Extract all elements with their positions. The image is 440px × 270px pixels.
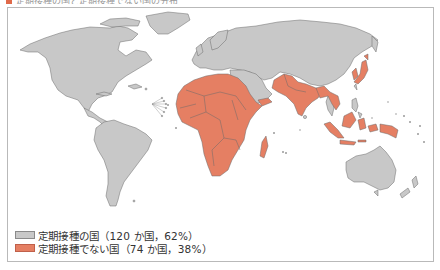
japan-korea bbox=[352, 54, 368, 84]
oceania-routine bbox=[346, 146, 418, 198]
south-america bbox=[94, 120, 152, 206]
legend-swatch-non-routine bbox=[15, 244, 35, 252]
north-america bbox=[20, 12, 190, 128]
maritime-southeast-asia bbox=[324, 112, 398, 145]
legend-item-non-routine: 定期接種でない国（74 か国，38%） bbox=[15, 242, 212, 254]
map-legend: 定期接種の国（120 か国，62%） 定期接種でない国（74 か国，38%） bbox=[15, 229, 212, 255]
legend-swatch-routine bbox=[15, 231, 35, 239]
legend-item-routine: 定期接種の国（120 か国，62%） bbox=[15, 229, 212, 241]
caribbean-callout-lines bbox=[152, 97, 167, 117]
legend-label-non-routine: 定期接種でない国（74 か国，38%） bbox=[38, 241, 212, 256]
